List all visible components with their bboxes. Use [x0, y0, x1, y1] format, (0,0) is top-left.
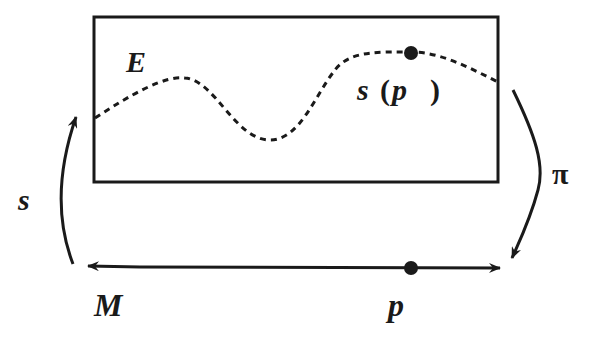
- section-point-label-paren-open: (: [380, 73, 390, 107]
- projection-arrow: [512, 90, 540, 258]
- base-space-line-left-arrow: [88, 266, 140, 267]
- section-map-label: s: [17, 183, 30, 216]
- base-space-line: [140, 267, 500, 268]
- fiber-bundle-diagram: E s ( p ) s π M p: [0, 0, 591, 344]
- projection-label: π: [552, 157, 569, 190]
- section-point-dot: [404, 46, 418, 60]
- base-point-label: p: [385, 287, 404, 323]
- section-point-label-s: s: [356, 73, 369, 106]
- total-space-label: E: [125, 45, 146, 78]
- section-map-arrow: [61, 117, 76, 264]
- section-point-label-paren-close: ): [430, 73, 440, 107]
- section-point-label-p: p: [389, 73, 407, 106]
- base-space-label: M: [93, 287, 124, 323]
- base-point-dot: [404, 261, 418, 275]
